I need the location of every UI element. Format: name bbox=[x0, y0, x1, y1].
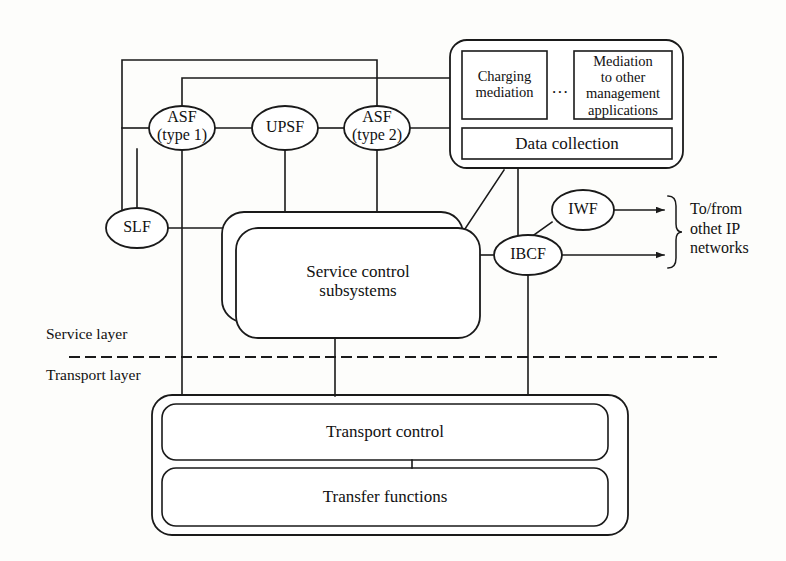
asf-type1-node bbox=[149, 106, 215, 150]
other-mediation-box bbox=[574, 51, 672, 119]
transfer-functions-box bbox=[162, 468, 608, 526]
diagram-canvas: ASF (type 1) UPSF ASF (type 2) SLF IWF I… bbox=[0, 0, 786, 561]
asf-type2-node bbox=[344, 106, 410, 150]
upsf-node bbox=[252, 106, 318, 150]
diagram-svg bbox=[0, 0, 786, 561]
service-control-front-box bbox=[236, 228, 480, 338]
data-collection-box bbox=[462, 128, 672, 159]
charging-mediation-box bbox=[462, 51, 547, 119]
external-brace bbox=[668, 196, 682, 268]
ibcf-node bbox=[494, 235, 562, 275]
transport-control-box bbox=[162, 404, 608, 460]
rail-asf1-to-management bbox=[182, 78, 450, 107]
link-servicecontrol-management-diagonal bbox=[463, 170, 504, 232]
slf-node bbox=[106, 208, 168, 248]
iwf-node bbox=[552, 190, 614, 230]
